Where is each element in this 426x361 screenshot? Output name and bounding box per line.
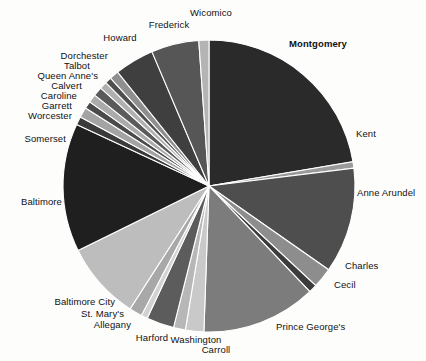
pie-slice-label: Montgomery <box>289 39 347 50</box>
pie-slice-label: Garrett <box>42 101 72 112</box>
pie-slice-group <box>63 40 355 332</box>
pie-slice-label: Washington <box>171 335 222 346</box>
pie-slice-label: Baltimore City <box>54 297 115 308</box>
pie-slice-label: Frederick <box>149 20 190 31</box>
chart-area: MontgomeryKentAnne ArundelCharlesCecilPr… <box>0 0 426 361</box>
pie-slice-label: Cecil <box>334 280 356 291</box>
pie-slice-label: Queen Anne's <box>37 71 98 82</box>
pie-slice-label: Baltimore <box>21 197 62 208</box>
pie-slice-label: Allegany <box>94 320 131 331</box>
pie-slice-label: Calvert <box>51 81 82 92</box>
pie-slice-label: Anne Arundel <box>357 188 415 199</box>
pie-slice-label: Kent <box>356 129 376 140</box>
pie-slice-label: Dorchester <box>61 51 108 62</box>
pie-chart-screenshot: MontgomeryKentAnne ArundelCharlesCecilPr… <box>0 0 426 361</box>
pie-slice-label: Charles <box>345 261 378 272</box>
pie-slice-label: Wicomico <box>190 8 232 19</box>
pie-slice-label: Prince George's <box>276 322 345 333</box>
pie-slice-label: Carroll <box>202 345 231 356</box>
pie-slice-label: Talbot <box>64 61 90 72</box>
pie-slice-label: St. Mary's <box>81 309 124 320</box>
pie-slice-label: Somerset <box>25 134 66 145</box>
pie-slice-label: Worcester <box>28 111 72 122</box>
pie-slice-label: Howard <box>103 33 136 44</box>
pie-slice-label: Caroline <box>41 91 77 102</box>
pie-slice[interactable] <box>209 40 353 186</box>
pie-slice-label: Harford <box>136 333 168 344</box>
